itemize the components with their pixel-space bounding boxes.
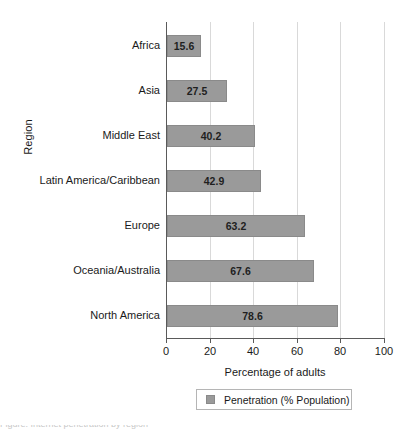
bar-value-label: 67.6	[167, 260, 314, 282]
bar-value-label: 15.6	[167, 35, 201, 57]
x-tick-label: 60	[277, 345, 317, 357]
legend: Penetration (% Population)	[196, 389, 352, 410]
bar-row: 42.9	[167, 170, 261, 192]
bar-row: 78.6	[167, 305, 338, 327]
legend-swatch-icon	[206, 395, 215, 404]
plot-area: 15.627.540.242.963.267.678.6	[166, 22, 384, 338]
x-tick-label: 100	[364, 345, 404, 357]
x-tick	[210, 338, 211, 343]
category-label: Latin America/Caribbean	[30, 169, 160, 191]
bar-value-label: 42.9	[167, 170, 261, 192]
x-tick	[253, 338, 254, 343]
category-label: Africa	[30, 34, 160, 56]
x-tick-label: 80	[320, 345, 360, 357]
bar-chart: Region AfricaAsiaMiddle EastLatin Americ…	[0, 0, 418, 436]
clipped-caption: Figure: Internet penetration by region	[0, 425, 418, 436]
category-label: Europe	[30, 214, 160, 236]
x-tick	[297, 338, 298, 343]
bar-row: 40.2	[167, 125, 255, 147]
bar-value-label: 27.5	[167, 80, 227, 102]
bar-value-label: 63.2	[167, 215, 305, 237]
x-tick-label: 20	[190, 345, 230, 357]
x-tick	[166, 338, 167, 343]
bar-value-label: 40.2	[167, 125, 255, 147]
bar-row: 67.6	[167, 260, 314, 282]
bar-row: 63.2	[167, 215, 305, 237]
x-tick	[340, 338, 341, 343]
category-label: North America	[30, 304, 160, 326]
clipped-caption-text: Figure: Internet penetration by region	[0, 425, 418, 430]
category-label: Asia	[30, 79, 160, 101]
category-label: Oceania/Australia	[30, 259, 160, 281]
x-tick-label: 0	[146, 345, 186, 357]
category-label: Middle East	[30, 124, 160, 146]
bar-row: 27.5	[167, 80, 227, 102]
x-axis-line	[166, 338, 385, 339]
gridline	[297, 22, 298, 338]
legend-label: Penetration (% Population)	[224, 394, 350, 406]
gridline	[384, 22, 385, 338]
x-tick-label: 40	[233, 345, 273, 357]
x-axis-title: Percentage of adults	[166, 366, 384, 378]
gridline	[340, 22, 341, 338]
x-tick	[384, 338, 385, 343]
bar-row: 15.6	[167, 35, 201, 57]
bar-value-label: 78.6	[167, 305, 338, 327]
